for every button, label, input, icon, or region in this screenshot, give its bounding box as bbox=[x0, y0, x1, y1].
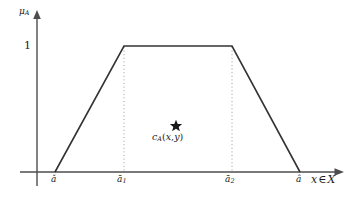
y-axis-label-subscript: A bbox=[25, 9, 30, 17]
x-tick-a1-subscript: 1 bbox=[122, 177, 126, 185]
y-tick-label-1: 1 bbox=[24, 40, 31, 51]
x-axis-set-symbol: X bbox=[327, 173, 335, 186]
star-marker bbox=[170, 120, 182, 132]
element-of-icon: ∈ bbox=[317, 173, 327, 186]
trapezoid-membership-plot bbox=[0, 0, 358, 203]
x-tick-label-a-bar-1: ā1 bbox=[117, 175, 127, 185]
y-axis-label: μA bbox=[19, 7, 30, 17]
y-axis bbox=[33, 10, 41, 186]
x-axis-variable-label: x∈X bbox=[311, 174, 335, 185]
x-tick-a2-subscript: 2 bbox=[230, 177, 234, 185]
x-tick-label-a-bar-2: ā2 bbox=[225, 175, 235, 185]
x-tick-label-a-check: ǎ bbox=[51, 175, 56, 184]
centroid-label: cA(x,y) bbox=[152, 132, 183, 143]
x-tick-label-a-hat: â bbox=[296, 175, 301, 184]
figure-container: μA 1 ǎ ā1 ā2 â x∈X cA(x,y) bbox=[0, 0, 358, 203]
centroid-label-close-paren: ) bbox=[180, 131, 184, 142]
membership-curve bbox=[55, 46, 300, 172]
